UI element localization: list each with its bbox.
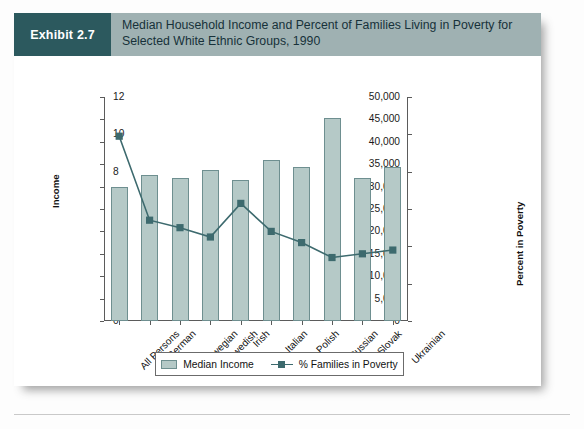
x-axis-tick (150, 321, 151, 325)
x-axis-tick (302, 321, 303, 325)
exhibit-number-badge: Exhibit 2.7 (14, 13, 111, 56)
exhibit-panel: Exhibit 2.7 Median Household Income and … (14, 13, 541, 386)
y-axis-right-title: Percent in Poverty (514, 202, 525, 286)
plot-frame: 05,00010,00015,00020,00025,00030,00035,0… (104, 97, 408, 321)
exhibit-title-line-1: Median Household Income and Percent of F… (122, 18, 531, 34)
poverty-line-series (104, 97, 408, 321)
x-axis-tick (210, 321, 211, 325)
x-axis-tick (180, 321, 181, 325)
legend-item-poverty: % Families in Poverty (271, 359, 398, 370)
x-axis-tick (119, 321, 120, 325)
y-axis-right-tick (408, 172, 412, 173)
exhibit-header: Exhibit 2.7 Median Household Income and … (14, 13, 541, 56)
poverty-line-marker (328, 254, 335, 261)
poverty-line-marker (116, 133, 123, 140)
poverty-line-marker (359, 250, 366, 257)
line-marker-swatch-icon (271, 360, 293, 369)
poverty-line-marker (389, 246, 396, 253)
exhibit-title: Median Household Income and Percent of F… (111, 13, 541, 56)
x-axis-tick (271, 321, 272, 325)
legend-item-median-income: Median Income (161, 359, 253, 370)
y-axis-right-tick (408, 246, 412, 247)
poverty-line-marker (268, 228, 275, 235)
y-axis-left-tick (100, 321, 104, 322)
legend-label-median-income: Median Income (183, 359, 253, 370)
poverty-line-marker (298, 239, 305, 246)
exhibit-title-line-2: Selected White Ethnic Groups, 1990 (122, 34, 531, 50)
y-axis-right-tick (408, 209, 412, 210)
y-axis-right-tick (408, 284, 412, 285)
poverty-line-marker (207, 233, 214, 240)
poverty-line-marker (176, 224, 183, 231)
x-axis-category-label: Italian (283, 328, 310, 355)
x-axis-tick (393, 321, 394, 325)
y-axis-left-title: Income (50, 174, 61, 208)
poverty-line-path (119, 136, 393, 257)
bar-swatch-icon (161, 360, 177, 369)
poverty-line-marker (237, 200, 244, 207)
page-divider-rule (14, 414, 570, 415)
poverty-line-marker (146, 217, 153, 224)
y-axis-right-tick (408, 97, 412, 98)
x-axis-tick (362, 321, 363, 325)
y-axis-right-tick (408, 134, 412, 135)
x-axis-category-label: Polish (314, 328, 341, 355)
x-axis-tick (332, 321, 333, 325)
screenshot-root: Exhibit 2.7 Median Household Income and … (0, 0, 584, 429)
y-axis-right-tick (408, 321, 412, 322)
legend-label-poverty: % Families in Poverty (299, 359, 398, 370)
x-axis-category-label: Ukrainian (409, 328, 447, 366)
x-axis-tick (241, 321, 242, 325)
chart-area: Income Percent in Poverty 05,00010,00015… (14, 56, 541, 386)
chart-legend: Median Income % Families in Poverty (155, 352, 404, 376)
